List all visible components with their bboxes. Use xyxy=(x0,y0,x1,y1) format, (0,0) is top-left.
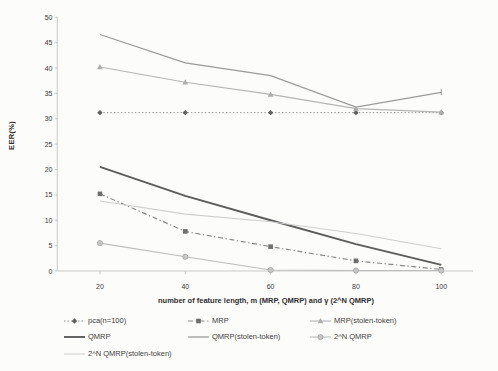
legend-item-mrp-stolen-token: MRP(stolen-token) xyxy=(310,316,397,326)
legend-label: MRP xyxy=(212,316,229,326)
legend-label: QMRP xyxy=(88,332,111,342)
legend-item-2-n-qmrp-stolen-token: 2^N QMRP(stolen-token) xyxy=(64,349,172,359)
chart-figure: 0510152025303540455020406080100 EER(%) n… xyxy=(0,0,498,371)
legend-qmrp-stolen-token-swatch-icon xyxy=(188,332,209,342)
legend-label: 2^N QMRP(stolen-token) xyxy=(88,349,172,359)
legend-2-n-qmrp-stolen-token-swatch-icon xyxy=(64,349,85,359)
legend-qmrp-swatch-icon xyxy=(64,332,85,342)
legend-item-qmrp: QMRP xyxy=(64,332,111,342)
legend-label: 2^N QMRP xyxy=(334,332,372,342)
legend-label: MRP(stolen-token) xyxy=(334,316,397,326)
legend-item-qmrp-stolen-token: QMRP(stolen-token) xyxy=(188,332,280,342)
legend-mrp-stolen-token-swatch-icon xyxy=(310,316,331,326)
legend-2-n-qmrp-swatch-icon xyxy=(310,332,331,342)
legend-pca-n-100-swatch-icon xyxy=(64,316,85,326)
legend-mrp-swatch-icon xyxy=(188,316,209,326)
legend-item-2-n-qmrp: 2^N QMRP xyxy=(310,332,372,342)
chart-legend: pca(n=100)MRPMRP(stolen-token)QMRPQMRP(s… xyxy=(0,0,498,371)
legend-item-mrp: MRP xyxy=(188,316,229,326)
legend-item-pca-n-100: pca(n=100) xyxy=(64,316,126,326)
legend-label: QMRP(stolen-token) xyxy=(212,332,280,342)
legend-label: pca(n=100) xyxy=(88,316,126,326)
